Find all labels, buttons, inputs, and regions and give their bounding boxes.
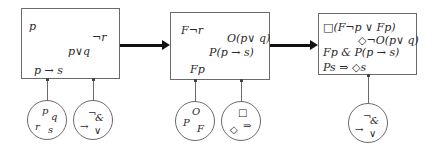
arrow-1-shaft	[120, 44, 164, 47]
connector-3	[195, 80, 196, 101]
formula-F-not-r: F¬r	[181, 25, 203, 36]
modal-circle: □ ◇ ⇒	[221, 101, 261, 141]
formula-p-or-q: p∨q	[68, 46, 90, 57]
connector-5-tick	[367, 74, 370, 77]
atoms-circle: p q r s	[27, 100, 67, 140]
symbol-r: r	[35, 122, 40, 132]
formula-box-3: □(F¬p ∨ Fp) ◇¬O(p∨ q) Fp & P(p → s) Ps ⇒…	[318, 13, 417, 75]
symbol-and: &	[370, 116, 379, 126]
symbol-F: F	[197, 124, 204, 134]
connector-3-tick	[194, 79, 197, 82]
formula-O-p-or-q: O(p∨ q)	[227, 33, 270, 44]
symbol-and: &	[95, 113, 104, 123]
connector-1-tick	[46, 78, 49, 81]
symbol-q: q	[51, 112, 57, 122]
arrow-2-head-icon	[310, 40, 318, 50]
connector-5	[368, 75, 369, 103]
formula-Ps-implies-diamond-s: Ps ⇒ ◇s	[323, 62, 366, 73]
symbol-or: ∨	[94, 126, 101, 136]
box-icon: □	[238, 108, 247, 118]
formula-P-p-implies-s: P(p → s)	[209, 47, 254, 58]
connector-4	[241, 80, 242, 101]
arrow-2-shaft	[270, 44, 312, 47]
symbol-p: p	[42, 106, 48, 116]
formula-diamond-not-O: ◇¬O(p∨ q)	[358, 35, 419, 46]
connectives-circle-1: ¬ & → ∨	[73, 100, 113, 140]
double-arrow-icon: ⇒	[243, 121, 251, 131]
diamond-icon: ◇	[230, 125, 238, 135]
connector-2-tick	[92, 78, 95, 81]
symbol-implies: →	[80, 122, 88, 132]
symbol-s: s	[48, 125, 53, 135]
arrow-1-head-icon	[162, 40, 170, 50]
formula-p: p	[29, 21, 36, 32]
symbol-P: P	[183, 118, 190, 128]
connector-1	[47, 79, 48, 100]
connectives-circle-2: ¬ & → ∨	[348, 103, 388, 143]
formula-box-F-not-p-or-Fp: □(F¬p ∨ Fp)	[323, 22, 396, 33]
symbol-or: ∨	[369, 129, 376, 139]
formula-not-r: ¬r	[92, 32, 106, 43]
formula-box-1: p ¬r p∨q p → s	[21, 8, 120, 79]
formula-box-2: F¬r O(p∨ q) P(p → s) Fp	[170, 12, 270, 80]
symbol-implies: →	[355, 125, 363, 135]
formula-Fp: Fp	[190, 64, 205, 75]
connector-4-tick	[240, 79, 243, 82]
connector-2	[93, 79, 94, 100]
symbol-O: O	[192, 107, 200, 117]
operators-circle: O P F	[175, 101, 215, 141]
formula-Fp-and-P: Fp & P(p → s)	[323, 47, 399, 58]
formula-p-implies-s: p → s	[34, 65, 63, 76]
